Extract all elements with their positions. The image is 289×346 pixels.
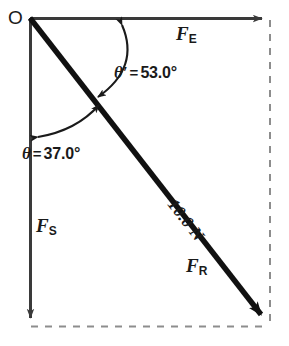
angle-arc-theta <box>38 105 99 137</box>
vector-canvas <box>0 0 289 346</box>
theta-prime-glyph: θ <box>114 63 123 82</box>
label-force-r: FR <box>186 256 207 277</box>
label-force-s-subscript: S <box>49 224 57 238</box>
force-vector-diagram: O FE FS FR 10.0 N θ′=53.0° θ=37.0° <box>0 0 289 346</box>
label-force-e: FE <box>176 24 197 45</box>
vector-fr-resultant <box>30 18 261 315</box>
theta-equals: = <box>31 145 44 162</box>
label-force-s: FS <box>36 216 57 237</box>
label-force-e-subscript: E <box>189 32 197 46</box>
prime-mark: ′ <box>123 63 128 82</box>
origin-label: O <box>8 8 23 27</box>
label-force-r-symbol: F <box>186 255 199 276</box>
theta-glyph: θ <box>22 144 31 163</box>
theta-value: 37.0° <box>44 145 81 162</box>
label-theta-prime: θ′=53.0° <box>114 64 177 81</box>
angle-arc-theta-prime <box>98 25 128 97</box>
theta-prime-equals: = <box>128 64 141 81</box>
theta-prime-value: 53.0° <box>140 64 177 81</box>
label-force-r-subscript: R <box>199 264 208 278</box>
label-force-s-symbol: F <box>36 215 49 236</box>
label-force-e-symbol: F <box>176 23 189 44</box>
label-theta: θ=37.0° <box>22 145 80 162</box>
